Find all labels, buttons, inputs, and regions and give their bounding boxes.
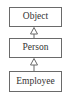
class-name-employee: Employee xyxy=(16,77,55,87)
class-box-person: Person xyxy=(9,38,62,58)
class-box-object: Object xyxy=(9,7,62,27)
hollow-triangle-icon xyxy=(31,28,38,35)
generalization-arrow-person-to-object xyxy=(31,28,38,39)
generalization-arrow-employee-to-person xyxy=(31,59,38,72)
hollow-triangle-icon xyxy=(31,59,38,66)
class-box-employee: Employee xyxy=(9,71,62,92)
class-name-person: Person xyxy=(23,43,49,53)
class-name-object: Object xyxy=(23,12,48,22)
